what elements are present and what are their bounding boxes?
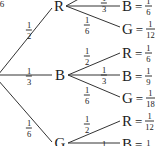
prob-root-B: 13 (26, 67, 32, 86)
outcome-R-G: G = 112 (122, 20, 155, 39)
outcome-R-B: B = 16 (122, 0, 152, 16)
branch-R-G (66, 6, 120, 27)
outcome-B-R: R = 16 (122, 44, 152, 63)
node-B: B (55, 68, 65, 83)
branch-G-R (68, 121, 120, 143)
prob-R-G: 16 (84, 16, 90, 35)
outcome-G-B: B = 1 (122, 136, 152, 147)
node-R: R (54, 0, 64, 14)
outcome-B-B: B = 19 (122, 67, 152, 86)
prob-root-R: 12 (26, 21, 32, 40)
branch-B-R (68, 53, 120, 75)
prob-B-G: 16 (84, 86, 90, 105)
prob-G-B: 1 (101, 140, 107, 146)
branch-B-G (68, 75, 120, 97)
prob-root-G: 16 (26, 119, 32, 138)
outcome-G-R: R = 112 (122, 112, 154, 131)
branch-R-R (66, 0, 95, 6)
outcome-B-G: G = 118 (122, 89, 155, 108)
node-G: G (55, 136, 66, 147)
prob-R-B: 13 (101, 0, 107, 13)
prob-B-R: 12 (84, 47, 90, 66)
root-mark: 6 (0, 0, 4, 9)
prob-B-B: 13 (101, 66, 107, 85)
prob-G-R: 12 (84, 115, 90, 134)
